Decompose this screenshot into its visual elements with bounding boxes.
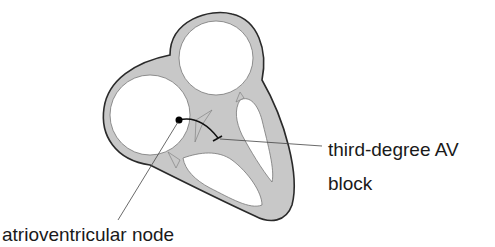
- heart-diagram: [0, 0, 495, 247]
- left-atrium-chamber: [110, 75, 190, 155]
- label-atrioventricular-node: atrioventricular node: [2, 224, 174, 246]
- upper-atrium-chamber: [179, 21, 253, 95]
- av-node-dot: [176, 117, 183, 124]
- label-third-degree-av-block: third-degree AV: [328, 139, 459, 161]
- label-third-degree-av-block-line2: block: [328, 173, 372, 195]
